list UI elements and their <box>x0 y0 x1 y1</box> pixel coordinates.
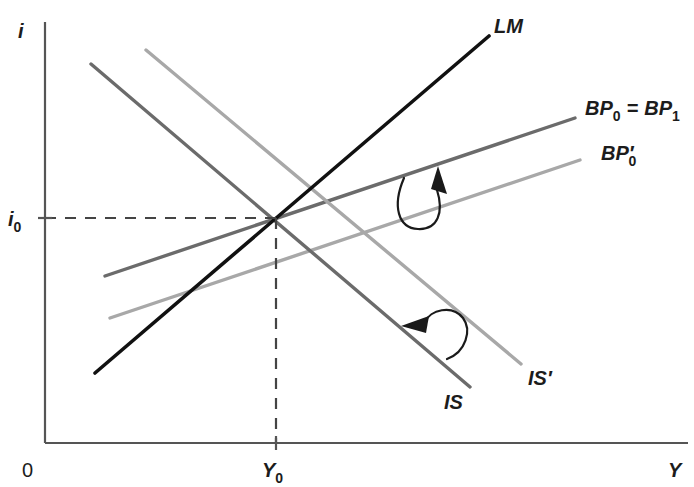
rotation-arrows-group <box>398 166 467 359</box>
curve-is[interactable] <box>91 64 470 387</box>
curve-is-prime[interactable] <box>146 50 521 364</box>
curve-bp0-bp1[interactable] <box>105 118 575 276</box>
curve-label-is-prime: IS′ <box>528 367 553 389</box>
curves-group <box>91 36 580 387</box>
curve-label-bp0-bp1: BP0=BP1 <box>585 97 680 124</box>
bp1-subscript: 1 <box>672 108 680 124</box>
equilibrium-guides <box>38 218 276 450</box>
curve-labels-group: LM BP0=BP1 BP′0 IS′ IS <box>444 15 680 413</box>
curve-label-lm: LM <box>494 15 524 37</box>
is-lm-bp-diagram: i Y 0 i0 Y0 LM BP0=BP1 BP′0 <box>0 0 694 487</box>
curve-label-bp0-prime: BP′0 <box>601 142 637 169</box>
x-tick-subscript: 0 <box>275 470 283 486</box>
bp-rotation-arrowhead <box>431 166 447 194</box>
is-rotation-arrow-curve <box>425 310 467 359</box>
bp0-base: BP <box>585 97 613 119</box>
bp-prime-subscript: 0 <box>629 153 637 169</box>
curve-bp0-prime[interactable] <box>110 160 580 318</box>
bp-equals-sign: = <box>627 97 639 119</box>
origin-label: 0 <box>22 459 33 481</box>
curve-label-is: IS <box>444 391 464 413</box>
x-axis-label: Y <box>668 459 683 481</box>
bp-prime-base: BP <box>601 142 629 164</box>
y-tick-subscript: 0 <box>14 219 22 235</box>
curve-lm[interactable] <box>95 36 489 373</box>
bp1-base: BP <box>644 97 672 119</box>
y-axis-label: i <box>18 20 24 42</box>
axis-labels-group: i Y 0 <box>18 20 683 481</box>
bp0-subscript: 0 <box>613 108 621 124</box>
tick-labels-group: i0 Y0 <box>8 208 283 486</box>
y-tick-label-i0: i0 <box>8 208 22 235</box>
figure-canvas: i Y 0 i0 Y0 LM BP0=BP1 BP′0 <box>0 0 694 487</box>
x-tick-label-y0: Y0 <box>262 459 283 486</box>
